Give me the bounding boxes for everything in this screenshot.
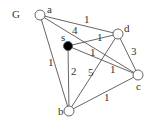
edge-weight-label: 1: [104, 91, 110, 103]
edge-s-b: [68, 46, 69, 111]
node-label-s: s: [61, 31, 65, 43]
edge-weight-label: 1: [84, 13, 90, 25]
node-c: [133, 70, 143, 80]
edge-weight-label: 1: [48, 56, 54, 68]
node-label-c: c: [136, 80, 141, 92]
edge-weight-label: 1: [90, 46, 96, 58]
edge-weight-label: 3: [131, 45, 137, 57]
edge-weight-label: 1: [110, 63, 116, 75]
edge-weight-label: 2: [71, 65, 77, 77]
weighted-graph-diagram: G 1411125311 adscb: [0, 0, 153, 125]
edge-weight-label: 1: [97, 31, 103, 43]
edge-s-c: [68, 46, 138, 75]
node-label-d: d: [124, 22, 130, 34]
node-a: [35, 10, 45, 20]
edge-a-d: [40, 15, 118, 34]
edge-weight-label: 4: [72, 24, 78, 36]
node-label-b: b: [58, 105, 64, 117]
graph-title: G: [12, 8, 20, 20]
node-d: [113, 29, 123, 39]
edge-weight-label: 5: [88, 66, 94, 78]
edge-a-b: [40, 15, 69, 111]
node-label-a: a: [47, 3, 52, 15]
node-b: [64, 106, 74, 116]
